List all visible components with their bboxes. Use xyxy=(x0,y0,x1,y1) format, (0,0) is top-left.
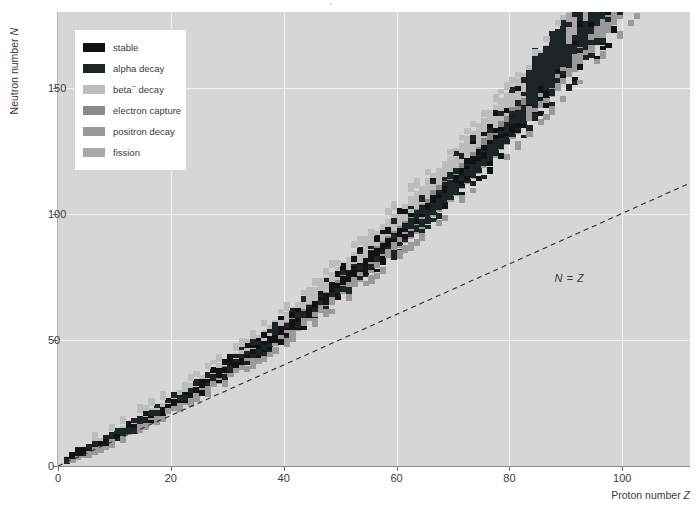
x-tick-label: 0 xyxy=(55,472,61,484)
nuclide-cell xyxy=(374,273,380,278)
nuclide-cell xyxy=(436,220,442,226)
nuclide-cell xyxy=(459,195,465,203)
y-axis-label-symbol: N xyxy=(8,28,20,36)
nuclide-cell xyxy=(470,188,476,193)
legend-item[interactable]: stable xyxy=(83,37,178,58)
nuclide-cell xyxy=(470,121,476,127)
nuclide-cell xyxy=(244,339,250,343)
x-axis-line xyxy=(58,466,690,467)
nuclide-cell xyxy=(487,161,493,166)
nuclide-cell xyxy=(577,80,583,84)
nuclide-cell xyxy=(493,94,499,101)
nuclide-cell xyxy=(425,169,431,175)
y-tick-label: 150 xyxy=(48,82,66,94)
x-axis-label-text: Proton number xyxy=(611,489,683,501)
legend: stablealpha decaybeta− decayelectron cap… xyxy=(75,30,186,170)
nuclide-cell xyxy=(205,363,211,368)
legend-item[interactable]: positron decay xyxy=(83,121,178,142)
x-axis-label-symbol: Z xyxy=(684,489,690,501)
y-axis-label-text: Neutron number xyxy=(8,36,20,115)
x-axis-label: Proton number Z xyxy=(611,489,690,501)
legend-swatch xyxy=(83,85,105,94)
nuclide-cell xyxy=(193,371,199,377)
x-tick-label: 100 xyxy=(613,472,631,484)
nuclide-cell xyxy=(634,13,640,19)
nuclide-cell xyxy=(628,20,634,26)
nuclide-cell xyxy=(312,318,318,327)
x-tick-label: 80 xyxy=(503,472,515,484)
x-tick-mark xyxy=(284,467,285,471)
n-equals-z-label: N = Z xyxy=(555,272,585,284)
nuclide-cell xyxy=(515,141,521,150)
nuclide-cell xyxy=(216,354,222,363)
nuclide-cell xyxy=(160,391,166,399)
nuclide-cell xyxy=(543,36,549,42)
legend-item[interactable]: alpha decay xyxy=(83,58,178,79)
nuclide-cell xyxy=(323,268,329,275)
nuclide-cell xyxy=(605,43,611,47)
nuclide-cell xyxy=(363,236,369,242)
nuclide-cell xyxy=(515,130,521,134)
y-axis-label: Neutron number N xyxy=(8,28,20,114)
legend-item[interactable]: fission xyxy=(83,142,178,163)
nuclide-cell xyxy=(109,424,115,431)
nuclide-cell xyxy=(459,135,465,140)
nuclide-cell xyxy=(549,106,555,115)
nuclide-cell xyxy=(329,309,335,314)
nuclide-cell xyxy=(577,64,583,71)
nuclide-cell xyxy=(600,38,606,42)
legend-swatch xyxy=(83,148,105,157)
nuclide-cell xyxy=(526,131,532,137)
nuclide-cell xyxy=(92,432,98,441)
nuclide-cell xyxy=(272,347,278,354)
nuclide-cell xyxy=(600,51,606,59)
legend-label: alpha decay xyxy=(113,63,164,74)
nuclide-cell xyxy=(560,15,566,20)
nuclide-cell xyxy=(617,12,623,15)
nuclide-cell xyxy=(346,294,352,301)
nuclide-cell xyxy=(481,110,487,117)
nuclide-cell xyxy=(109,439,115,448)
nuclide-cell xyxy=(391,201,397,210)
nuclide-cell xyxy=(594,59,600,64)
nuclide-cell xyxy=(193,397,199,402)
nuclide-cell xyxy=(335,260,341,266)
nuclide-cell xyxy=(250,330,256,337)
nuclide-cell xyxy=(380,267,386,273)
legend-swatch xyxy=(83,106,105,115)
nuclide-cell xyxy=(419,233,425,241)
nuclide-cell xyxy=(306,287,312,292)
nuclide-cell xyxy=(481,175,487,179)
y-tick-label: 100 xyxy=(48,208,66,220)
x-tick-label: 20 xyxy=(165,472,177,484)
nuclide-cell xyxy=(222,380,228,387)
nuclide-cell xyxy=(470,181,476,187)
legend-item[interactable]: electron capture xyxy=(83,100,178,121)
nuclide-cell xyxy=(447,149,453,155)
nuclide-cell xyxy=(301,326,307,330)
legend-item[interactable]: beta− decay xyxy=(83,79,178,100)
legend-label: fission xyxy=(113,147,140,158)
x-tick-mark xyxy=(58,467,59,471)
nuclide-cell xyxy=(261,320,267,325)
y-tick-label: 0 xyxy=(48,460,54,472)
nuclide-cell xyxy=(560,96,566,102)
legend-label: electron capture xyxy=(113,105,181,116)
nuclide-cell xyxy=(442,215,448,221)
nuclide-cell xyxy=(318,278,324,282)
legend-swatch xyxy=(83,64,105,73)
x-tick-mark xyxy=(509,467,510,471)
image-artifact-dot xyxy=(330,3,332,5)
nuclide-cell xyxy=(182,382,188,387)
nuclide-cell xyxy=(284,302,290,311)
legend-swatch xyxy=(83,127,105,136)
x-tick-label: 60 xyxy=(390,472,402,484)
nuclide-cell xyxy=(205,390,211,397)
nuclide-cell xyxy=(509,77,515,84)
nuclide-cell xyxy=(543,114,549,120)
nuclide-cell xyxy=(532,49,538,56)
nuclide-cell xyxy=(555,20,561,26)
legend-label: beta− decay xyxy=(113,84,164,95)
nuclide-cell xyxy=(120,416,126,424)
nuclide-cell xyxy=(368,229,374,236)
